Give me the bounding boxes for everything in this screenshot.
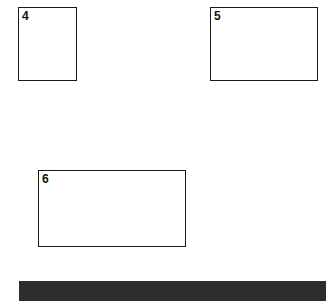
figure-canvas: 4 5 6 xyxy=(0,0,326,301)
figure-label-4: 4 xyxy=(22,9,29,23)
figure-box-4[interactable]: 4 xyxy=(18,7,77,81)
figure-box-5[interactable]: 5 xyxy=(210,7,318,81)
figure-label-5: 5 xyxy=(214,9,221,23)
figure-box-6[interactable]: 6 xyxy=(38,170,186,247)
figure-label-6: 6 xyxy=(42,172,49,186)
bottom-dark-bar xyxy=(19,281,326,301)
